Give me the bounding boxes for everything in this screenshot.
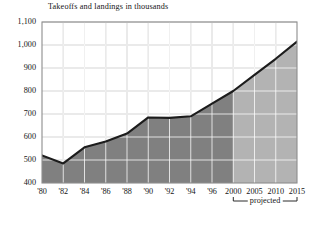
x-axis-tick-label: 2000 (225, 188, 241, 196)
chart-figure: Takeoffs and landings in thousands 40050… (0, 0, 320, 225)
x-axis-tick-label: '88 (122, 188, 132, 196)
y-axis-tick-label: 400 (2, 179, 36, 187)
x-axis-tick-label: '92 (165, 188, 175, 196)
x-axis-tick-label: '94 (186, 188, 196, 196)
x-axis-tick-label: '96 (207, 188, 217, 196)
x-axis-tick-label: '80 (37, 188, 47, 196)
y-axis-tick-label: 600 (2, 133, 36, 141)
y-axis-tick-label: 800 (2, 87, 36, 95)
y-axis-tick-label: 1,000 (2, 41, 36, 49)
projected-annotation-label: projected (248, 197, 282, 205)
x-axis-tick-label: '84 (80, 188, 90, 196)
x-axis-tick-label: 2015 (289, 188, 305, 196)
x-axis-tick-label: '90 (143, 188, 153, 196)
y-axis-tick-label: 900 (2, 64, 36, 72)
y-axis-tick-label: 500 (2, 156, 36, 164)
x-axis-tick-label: '82 (58, 188, 68, 196)
y-axis-tick-label: 700 (2, 110, 36, 118)
y-axis-tick-label: 1,100 (2, 18, 36, 26)
x-axis-tick-label: '86 (101, 188, 111, 196)
